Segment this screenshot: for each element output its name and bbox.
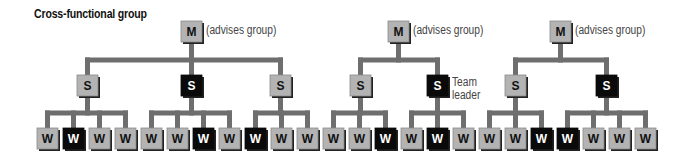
worker-box-group-1-1-1: W	[37, 128, 60, 151]
box-label: W	[614, 132, 626, 146]
box-label: S	[602, 79, 610, 93]
box-label: W	[432, 132, 444, 146]
worker-box-group-1-1-2: W	[63, 128, 86, 151]
worker-box-group-1-1-3: W	[89, 128, 112, 151]
manager-box-group-3: M	[550, 21, 573, 44]
box-label: W	[562, 132, 574, 146]
worker-box-group-3-2-1: W	[557, 128, 580, 151]
box-label: W	[224, 132, 236, 146]
box-label: S	[83, 79, 91, 93]
supervisor-box-group-2-1: S	[350, 75, 373, 98]
worker-box-group-1-3-2: W	[271, 128, 294, 151]
worker-box-group-1-2-2: W	[167, 128, 190, 151]
box-label: W	[536, 132, 548, 146]
worker-box-group-3-1-2: W	[505, 128, 528, 151]
box-label: W	[588, 132, 600, 146]
box-label: S	[276, 79, 284, 93]
box-label: W	[120, 132, 132, 146]
box-label: W	[68, 132, 80, 146]
box-label: S	[433, 79, 441, 93]
box-label: W	[484, 132, 496, 146]
box-label: W	[94, 132, 106, 146]
manager-box-group-1: M	[181, 21, 204, 44]
box-label: M	[556, 25, 566, 39]
box-label: W	[146, 132, 158, 146]
box-label: M	[187, 25, 197, 39]
box-label: W	[458, 132, 470, 146]
box-label: S	[511, 79, 519, 93]
worker-box-group-1-2-4: W	[219, 128, 242, 151]
worker-box-group-3-1-1: W	[479, 128, 502, 151]
worker-box-group-1-2-3: W	[193, 128, 216, 151]
supervisor-box-group-2-2: S	[427, 75, 450, 98]
supervisor-box-group-1-2: S	[181, 75, 204, 98]
worker-box-group-2-2-3: W	[453, 128, 476, 151]
box-label: W	[510, 132, 522, 146]
box-label: W	[406, 132, 418, 146]
box-label: W	[328, 132, 340, 146]
supervisor-box-group-1-3: S	[270, 75, 293, 98]
supervisor-box-group-3-1: S	[505, 75, 528, 98]
worker-box-group-1-3-3: W	[297, 128, 320, 151]
supervisor-box-group-3-2: S	[596, 75, 619, 98]
box-label: S	[356, 79, 364, 93]
box-label: M	[394, 25, 404, 39]
box-label: S	[187, 79, 195, 93]
box-label: W	[302, 132, 314, 146]
worker-box-group-1-3-1: W	[245, 128, 268, 151]
worker-box-group-3-2-4: W	[635, 128, 658, 151]
manager-box-group-2: M	[388, 21, 411, 44]
box-label: W	[640, 132, 652, 146]
worker-box-group-2-1-2: W	[349, 128, 372, 151]
worker-box-group-2-2-1: W	[401, 128, 424, 151]
box-label: W	[42, 132, 54, 146]
worker-box-group-2-2-2: W	[427, 128, 450, 151]
worker-box-group-2-1-1: W	[323, 128, 346, 151]
org-chart: MSWWWWSWWWWSWWWMSWWWSWWWMSWWWSWWWW	[0, 0, 678, 161]
box-label: W	[276, 132, 288, 146]
worker-box-group-1-1-4: W	[115, 128, 138, 151]
worker-box-group-2-1-3: W	[375, 128, 398, 151]
worker-box-group-3-2-3: W	[609, 128, 632, 151]
box-label: W	[250, 132, 262, 146]
supervisor-box-group-1-1: S	[77, 75, 100, 98]
worker-box-group-3-1-3: W	[531, 128, 554, 151]
box-label: W	[354, 132, 366, 146]
worker-box-group-1-2-1: W	[141, 128, 164, 151]
box-label: W	[172, 132, 184, 146]
box-label: W	[380, 132, 392, 146]
worker-box-group-3-2-2: W	[583, 128, 606, 151]
box-label: W	[198, 132, 210, 146]
